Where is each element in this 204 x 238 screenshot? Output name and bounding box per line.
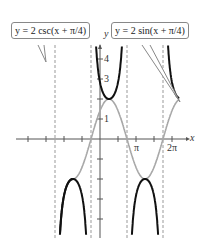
tick-label-pi: π bbox=[134, 142, 139, 153]
tick-label-y4: 4 bbox=[104, 53, 109, 64]
tick-label-y3: 3 bbox=[104, 73, 109, 84]
tick-label-2pi: 2π bbox=[167, 142, 177, 153]
sin-callout: y = 2 sin(x + π/4) bbox=[111, 22, 189, 39]
x-axis-label: x bbox=[190, 132, 194, 143]
tick-label-y1: 1 bbox=[104, 113, 109, 124]
csc-callout: y = 2 csc(x + π/4) bbox=[11, 22, 90, 39]
y-axis-label: y bbox=[104, 28, 108, 39]
